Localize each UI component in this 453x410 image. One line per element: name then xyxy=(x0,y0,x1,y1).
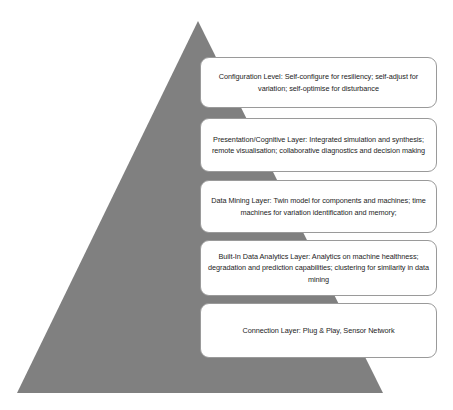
layer-box-configuration-level[interactable]: Configuration Level: Self-configure for … xyxy=(200,57,437,108)
layer-box-connection-layer[interactable]: Connection Layer: Plug & Play, Sensor Ne… xyxy=(200,303,437,358)
layer-label-configuration-level: Configuration Level: Self-configure for … xyxy=(208,71,429,93)
pyramid-diagram: Configuration Level: Self-configure for … xyxy=(0,0,453,410)
layer-box-built-in-data-analytics-layer[interactable]: Built-In Data Analytics Layer: Analytics… xyxy=(200,240,437,296)
layer-label-built-in-data-analytics-layer: Built-In Data Analytics Layer: Analytics… xyxy=(208,251,429,284)
layer-box-presentation-cognitive-layer[interactable]: Presentation/Cognitive Layer: Integrated… xyxy=(200,118,437,172)
layer-label-connection-layer: Connection Layer: Plug & Play, Sensor Ne… xyxy=(208,325,429,336)
layer-label-data-mining-layer: Data Mining Layer: Twin model for compon… xyxy=(208,195,429,217)
layer-box-data-mining-layer[interactable]: Data Mining Layer: Twin model for compon… xyxy=(200,180,437,233)
layer-label-presentation-cognitive-layer: Presentation/Cognitive Layer: Integrated… xyxy=(208,134,429,156)
